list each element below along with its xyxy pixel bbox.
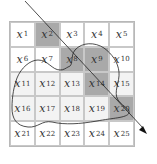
- cell-subscript: 13: [71, 80, 80, 88]
- cell-variable: x: [14, 127, 20, 140]
- grid-cell-x5: x5: [109, 22, 134, 47]
- grid-cell-x13: x13: [60, 72, 85, 97]
- cell-subscript: 11: [22, 80, 31, 88]
- grid-cell-x2: x2: [35, 22, 60, 47]
- cell-variable: x: [116, 28, 122, 41]
- cell-variable: x: [41, 53, 47, 66]
- cell-subscript: 5: [123, 30, 127, 38]
- grid-cell-x14: x14: [84, 72, 109, 97]
- grid-cell-x16: x16: [10, 96, 35, 121]
- cell-variable: x: [89, 127, 95, 140]
- cell-subscript: 7: [49, 55, 53, 63]
- grid-cell-x19: x19: [84, 96, 109, 121]
- cell-variable: x: [89, 77, 95, 90]
- grid-cell-x18: x18: [60, 96, 85, 121]
- grid-cell-x11: x11: [10, 72, 35, 97]
- cell-variable: x: [64, 77, 70, 90]
- grid-cell-x20: x20: [109, 96, 134, 121]
- grid-cell-x6: x6: [10, 47, 35, 72]
- cell-subscript: 23: [71, 130, 80, 138]
- arrowhead-icon: [139, 126, 147, 134]
- cell-subscript: 15: [121, 80, 130, 88]
- cell-variable: x: [114, 77, 120, 90]
- cell-subscript: 3: [73, 30, 77, 38]
- cell-variable: x: [89, 102, 95, 115]
- cell-variable: x: [14, 77, 20, 90]
- cell-variable: x: [91, 53, 97, 66]
- cell-subscript: 24: [96, 130, 105, 138]
- cell-subscript: 4: [98, 30, 102, 38]
- grid-cell-x22: x22: [35, 121, 60, 146]
- cell-subscript: 6: [24, 55, 28, 63]
- cell-variable: x: [41, 28, 47, 41]
- grid-cell-x1: x1: [10, 22, 35, 47]
- cell-subscript: 10: [121, 55, 130, 63]
- grid-cell-x24: x24: [84, 121, 109, 146]
- cell-subscript: 2: [49, 30, 53, 38]
- cell-variable: x: [66, 53, 72, 66]
- grid-cell-x12: x12: [35, 72, 60, 97]
- cell-variable: x: [39, 102, 45, 115]
- variable-grid: x1x2x3x4x5x6x7x8x9x10x11x12x13x14x15x16x…: [9, 21, 135, 147]
- cell-variable: x: [91, 28, 97, 41]
- cell-variable: x: [64, 127, 70, 140]
- cell-subscript: 16: [22, 105, 31, 113]
- grid-cell-x21: x21: [10, 121, 35, 146]
- grid-cell-x3: x3: [60, 22, 85, 47]
- cell-variable: x: [114, 102, 120, 115]
- grid-cell-x25: x25: [109, 121, 134, 146]
- cell-subscript: 8: [73, 55, 77, 63]
- cell-variable: x: [114, 53, 120, 66]
- cell-subscript: 18: [71, 105, 80, 113]
- grid-cell-x9: x9: [84, 47, 109, 72]
- grid-cell-x10: x10: [109, 47, 134, 72]
- cell-subscript: 20: [121, 105, 130, 113]
- cell-variable: x: [114, 127, 120, 140]
- cell-subscript: 25: [121, 130, 130, 138]
- grid-cell-x15: x15: [109, 72, 134, 97]
- grid-cell-x8: x8: [60, 47, 85, 72]
- cell-variable: x: [39, 127, 45, 140]
- grid-cell-x7: x7: [35, 47, 60, 72]
- cell-variable: x: [17, 28, 23, 41]
- cell-variable: x: [66, 28, 72, 41]
- grid-cell-x23: x23: [60, 121, 85, 146]
- cell-variable: x: [39, 77, 45, 90]
- grid-cell-x4: x4: [84, 22, 109, 47]
- cell-variable: x: [17, 53, 23, 66]
- cell-subscript: 21: [22, 130, 31, 138]
- cell-subscript: 12: [46, 80, 55, 88]
- cell-subscript: 17: [46, 105, 55, 113]
- cell-subscript: 19: [96, 105, 105, 113]
- cell-subscript: 22: [46, 130, 55, 138]
- grid-cell-x17: x17: [35, 96, 60, 121]
- cell-subscript: 9: [98, 55, 102, 63]
- cell-variable: x: [64, 102, 70, 115]
- cell-subscript: 14: [96, 80, 105, 88]
- cell-subscript: 1: [24, 30, 28, 38]
- cell-variable: x: [14, 102, 20, 115]
